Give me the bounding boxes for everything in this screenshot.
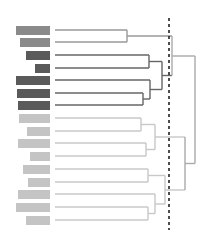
dendrogram <box>0 0 211 234</box>
dendrogram-links <box>0 0 211 234</box>
